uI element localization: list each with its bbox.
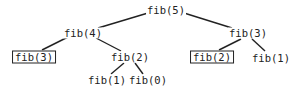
- node-fib1-right: fib(1): [251, 53, 291, 64]
- edge-fib3-fib2-boxed: [219, 39, 241, 50]
- node-fib0-bottom: fib(0): [128, 75, 168, 86]
- node-fib3-right: fib(3): [228, 28, 268, 39]
- edge-fib5-fib4: [98, 13, 148, 28]
- node-fib2-middle: fib(2): [110, 52, 150, 63]
- node-fib1-bottom: fib(1): [87, 75, 127, 86]
- node-fib5-root: fib(5): [146, 5, 186, 16]
- node-fib2-memoized-boxed: fib(2): [190, 51, 234, 64]
- edge-fib5-fib3: [184, 13, 232, 28]
- edge-fib3-fib1: [252, 39, 265, 51]
- edge-fib4-fib2: [96, 38, 121, 51]
- edge-fib2-fib0: [135, 63, 143, 74]
- fibonacci-recursion-tree: fib(5) fib(4) fib(3) fib(3) fib(2) fib(2…: [0, 0, 294, 95]
- node-fib3-memoized-boxed: fib(3): [12, 51, 56, 64]
- edge-fib4-fib3-boxed: [42, 37, 68, 50]
- node-fib4: fib(4): [63, 28, 103, 39]
- edge-fib2-fib1: [111, 63, 124, 74]
